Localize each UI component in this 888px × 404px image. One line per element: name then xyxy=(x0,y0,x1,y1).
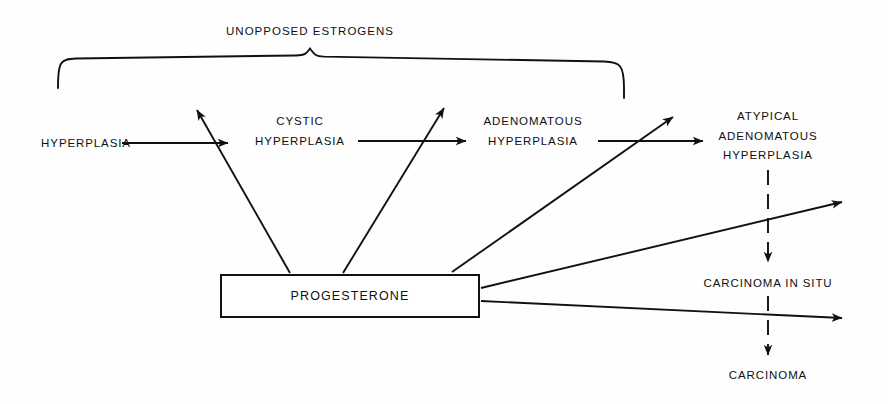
node-cystic-hyperplasia-line2: HYPERPLASIA xyxy=(255,132,345,152)
node-cystic-hyperplasia: CYSTIC HYPERPLASIA xyxy=(255,112,345,151)
node-hyperplasia: HYPERPLASIA xyxy=(41,134,131,153)
diagram-canvas: UNOPPOSED ESTROGENS HYPERPLASIA CYSTIC H… xyxy=(0,0,888,404)
node-carcinoma: CARCINOMA xyxy=(729,366,807,385)
node-atypical-adenomatous-hyperplasia-line2: ADENOMATOUS xyxy=(719,127,818,147)
node-adenomatous-hyperplasia-line2: HYPERPLASIA xyxy=(484,132,583,152)
unopposed-estrogens-brace xyxy=(58,49,624,99)
progesterone-box: PROGESTERONE xyxy=(220,274,480,318)
node-atypical-adenomatous-hyperplasia-line3: HYPERPLASIA xyxy=(719,146,818,166)
diagram-line-layer xyxy=(0,0,888,404)
node-atypical-adenomatous-hyperplasia: ATYPICAL ADENOMATOUS HYPERPLASIA xyxy=(719,107,818,166)
node-adenomatous-hyperplasia: ADENOMATOUS HYPERPLASIA xyxy=(484,112,583,151)
progesterone-inhibition-arrow-5 xyxy=(481,301,842,318)
node-carcinoma-in-situ: CARCINOMA IN SITU xyxy=(703,274,832,293)
node-cystic-hyperplasia-line1: CYSTIC xyxy=(255,112,345,132)
node-atypical-adenomatous-hyperplasia-line1: ATYPICAL xyxy=(719,107,818,127)
progesterone-inhibition-arrow-2 xyxy=(343,108,444,273)
progesterone-label: PROGESTERONE xyxy=(291,289,410,303)
node-adenomatous-hyperplasia-line1: ADENOMATOUS xyxy=(484,112,583,132)
brace-label: UNOPPOSED ESTROGENS xyxy=(226,22,394,41)
